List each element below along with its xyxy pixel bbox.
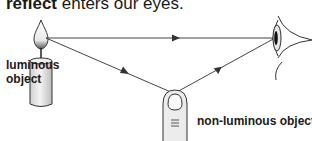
reflected-ray <box>175 38 275 93</box>
arrow-icon <box>120 67 129 75</box>
incident-ray <box>46 38 173 93</box>
arrow-icon <box>172 35 180 42</box>
arrow-heads <box>120 35 222 75</box>
light-rays <box>46 38 275 93</box>
non-luminous-object-label: non-luminous object <box>197 114 312 128</box>
eye-icon <box>273 16 312 80</box>
luminous-object-label: luminous object <box>6 58 46 86</box>
finger-icon <box>163 90 187 141</box>
